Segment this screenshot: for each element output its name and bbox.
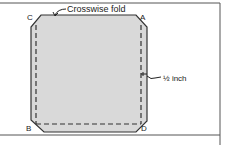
corner-label-d: D [141,124,147,133]
corner-label-b: B [26,124,31,133]
corner-label-a: A [140,13,146,22]
fold-diagram: Crosswise fold ½ inch C A B D [0,0,228,145]
corner-label-c: C [27,13,33,22]
measure-label: ½ inch [163,74,187,83]
fold-label: Crosswise fold [67,4,126,14]
fabric-shape [31,15,147,132]
